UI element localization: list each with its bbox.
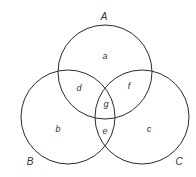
venn-diagram: ABCabcdefg <box>0 0 196 177</box>
set-label-a: A <box>100 11 108 22</box>
region-label-f: f <box>128 81 132 91</box>
set-label-c: C <box>175 156 183 167</box>
region-label-d: d <box>76 83 82 93</box>
region-label-e: e <box>102 126 107 136</box>
region-label-c: c <box>147 124 152 134</box>
set-circle-b <box>21 70 115 164</box>
region-label-g: g <box>103 99 108 109</box>
region-label-b: b <box>55 124 60 134</box>
region-label-a: a <box>102 51 107 61</box>
set-label-b: B <box>27 156 34 167</box>
set-circle-c <box>95 70 189 164</box>
